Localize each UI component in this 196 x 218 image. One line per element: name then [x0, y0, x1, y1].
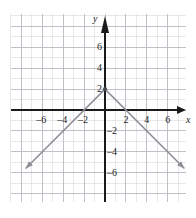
tick-label: –2 [78, 115, 88, 125]
tick-label: 6 [165, 115, 170, 125]
tick-label: 2 [123, 115, 128, 125]
tick-label: 6 [97, 42, 102, 52]
tick-label: 2 [97, 84, 102, 94]
x-axis-label: x [186, 115, 190, 125]
tick-label: –2 [107, 126, 117, 136]
tick-label: 4 [97, 63, 102, 73]
tick-label: –6 [36, 115, 46, 125]
vertex-marker [103, 87, 107, 91]
y-axis-label: y [93, 14, 97, 24]
graph-figure: –6–4–2246–6–4–2246 x y [0, 0, 196, 218]
tick-label: –6 [107, 168, 117, 178]
tick-label: –4 [107, 147, 117, 157]
tick-label: 4 [144, 115, 149, 125]
coordinate-plane-svg [0, 0, 196, 218]
tick-label: –4 [57, 115, 67, 125]
